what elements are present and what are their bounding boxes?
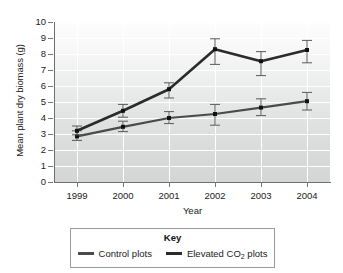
x-tick-label: 2000 bbox=[103, 190, 143, 201]
data-point-marker bbox=[305, 99, 309, 103]
error-bar bbox=[256, 52, 266, 76]
legend-label-control: Control plots bbox=[99, 248, 152, 259]
y-tick-label: 4 bbox=[28, 113, 46, 123]
y-tick-label: 0 bbox=[28, 177, 46, 187]
legend-label-elevated-prefix: Elevated CO bbox=[187, 248, 241, 259]
y-tick-label: 5 bbox=[28, 97, 46, 107]
data-point-marker bbox=[121, 125, 125, 129]
y-tick-mark bbox=[48, 134, 53, 135]
chart-figure: Mean plant dry biomass (g) 012345678910 … bbox=[0, 0, 343, 273]
legend-title: Key bbox=[71, 232, 274, 243]
x-tick-mark bbox=[77, 183, 78, 187]
series-elevated bbox=[72, 39, 312, 135]
x-tick-label: 2001 bbox=[149, 190, 189, 201]
y-tick-label: 1 bbox=[28, 161, 46, 171]
data-point-marker bbox=[213, 47, 217, 51]
data-point-marker bbox=[167, 87, 171, 91]
y-axis-title: Mean plant dry biomass (g) bbox=[14, 16, 25, 186]
x-tick-mark bbox=[307, 183, 308, 187]
y-tick-mark bbox=[48, 86, 53, 87]
series-line bbox=[77, 101, 307, 136]
series-line bbox=[77, 49, 307, 131]
legend-items: Control plots Elevated CO2 plots bbox=[71, 248, 274, 259]
y-tick-mark bbox=[48, 166, 53, 167]
y-tick-label: 3 bbox=[28, 129, 46, 139]
x-tick-label: 2004 bbox=[287, 190, 327, 201]
y-tick-label: 2 bbox=[28, 145, 46, 155]
y-tick-mark bbox=[48, 38, 53, 39]
x-tick-mark bbox=[169, 183, 170, 187]
y-tick-mark bbox=[48, 22, 53, 23]
legend-label-elevated-suffix: plots bbox=[245, 248, 268, 259]
y-tick-label: 6 bbox=[28, 81, 46, 91]
x-axis-line bbox=[54, 182, 331, 183]
y-tick-mark bbox=[48, 102, 53, 103]
data-point-marker bbox=[305, 48, 309, 52]
y-tick-mark bbox=[48, 70, 53, 71]
x-tick-mark bbox=[261, 183, 262, 187]
y-tick-label: 8 bbox=[28, 49, 46, 59]
legend-swatch-elevated bbox=[166, 252, 182, 255]
legend-box: Key Control plots Elevated CO2 plots bbox=[70, 228, 275, 268]
x-tick-mark bbox=[215, 183, 216, 187]
data-point-marker bbox=[167, 116, 171, 120]
y-tick-mark bbox=[48, 150, 53, 151]
x-tick-label: 2003 bbox=[241, 190, 281, 201]
x-tick-mark bbox=[123, 183, 124, 187]
data-point-marker bbox=[259, 59, 263, 63]
y-tick-label: 7 bbox=[28, 65, 46, 75]
data-point-marker bbox=[259, 106, 263, 110]
y-tick-mark bbox=[48, 182, 53, 183]
x-tick-label: 2002 bbox=[195, 190, 235, 201]
x-tick-label: 1999 bbox=[57, 190, 97, 201]
legend-item-control[interactable]: Control plots bbox=[78, 248, 152, 259]
x-axis-title: Year bbox=[54, 205, 331, 216]
y-axis-line bbox=[54, 22, 55, 183]
y-tick-mark bbox=[48, 118, 53, 119]
legend-item-elevated[interactable]: Elevated CO2 plots bbox=[166, 248, 268, 259]
y-tick-label: 9 bbox=[28, 33, 46, 43]
y-tick-label: 10 bbox=[28, 17, 46, 27]
legend-swatch-control bbox=[78, 252, 94, 254]
data-point-marker bbox=[75, 129, 79, 133]
legend-label-elevated: Elevated CO2 plots bbox=[187, 248, 268, 259]
data-point-marker bbox=[213, 112, 217, 116]
series-overlay bbox=[54, 22, 330, 182]
data-point-marker bbox=[121, 109, 125, 113]
legend-label-elevated-subscript: 2 bbox=[241, 253, 245, 260]
y-tick-mark bbox=[48, 54, 53, 55]
